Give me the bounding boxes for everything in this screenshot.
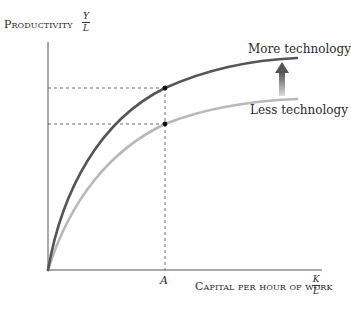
y-fraction-numerator: Y [83, 12, 89, 21]
y-axis-label: Productivity [4, 18, 73, 31]
less-technology-label: Less technology [250, 103, 348, 117]
more-technology-curve [48, 58, 297, 270]
x-tick-a: A [160, 274, 168, 287]
y-axis-fraction: Y L [82, 12, 90, 33]
shift-up-arrow-icon [275, 62, 289, 96]
x-fraction-numerator: K [313, 275, 320, 284]
more-technology-label: More technology [248, 42, 351, 56]
y-fraction-denominator: L [83, 24, 89, 33]
point-less-tech-at-a [163, 122, 168, 127]
x-axis-fraction: K L [312, 275, 320, 296]
point-more-tech-at-a [163, 86, 168, 91]
less-technology-curve [48, 99, 297, 270]
x-fraction-denominator: L [313, 287, 319, 296]
